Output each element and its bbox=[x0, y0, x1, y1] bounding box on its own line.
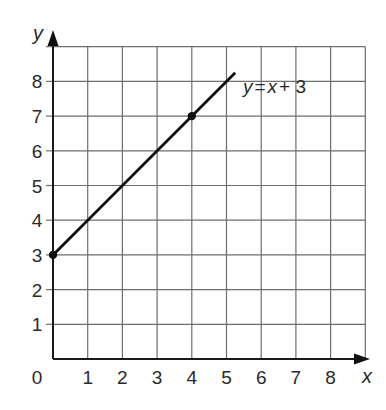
axes bbox=[48, 30, 371, 365]
x-tick-label: 2 bbox=[117, 367, 128, 388]
y-tick-label: 2 bbox=[32, 280, 43, 301]
y-tick-label: 1 bbox=[32, 314, 43, 335]
x-tick-label: 1 bbox=[82, 367, 93, 388]
y-tick-label: 4 bbox=[32, 210, 43, 231]
equation-x: x bbox=[267, 76, 279, 97]
equation-rest: + 3 bbox=[279, 76, 306, 97]
x-tick-label: 8 bbox=[325, 367, 336, 388]
x-tick-label: 7 bbox=[291, 367, 302, 388]
y-tick-label: 5 bbox=[32, 176, 43, 197]
grid bbox=[46, 47, 365, 359]
y-axis-label: y bbox=[31, 22, 44, 44]
series bbox=[49, 73, 235, 259]
x-tick-label: 4 bbox=[187, 367, 198, 388]
y-axis-arrow-icon bbox=[48, 30, 59, 46]
x-axis-label: x bbox=[361, 365, 373, 387]
y-tick-label: 3 bbox=[32, 245, 43, 266]
x-tick-label: 3 bbox=[152, 367, 163, 388]
origin-label: 0 bbox=[32, 367, 43, 388]
data-point bbox=[188, 112, 196, 120]
data-point bbox=[49, 251, 57, 259]
x-axis-arrow-icon bbox=[354, 354, 370, 365]
y-tick-label: 7 bbox=[32, 106, 43, 127]
chart: 1234567812345678 y x 0 y=x+ 3 bbox=[0, 0, 386, 410]
x-tick-label: 6 bbox=[256, 367, 267, 388]
y-tick-label: 8 bbox=[32, 71, 43, 92]
equation-equals: = bbox=[255, 76, 266, 97]
line-series bbox=[53, 73, 235, 255]
y-tick-label: 6 bbox=[32, 141, 43, 162]
x-tick-label: 5 bbox=[221, 367, 232, 388]
equation-label: y=x+ 3 bbox=[241, 76, 306, 97]
equation-y: y bbox=[241, 76, 254, 97]
